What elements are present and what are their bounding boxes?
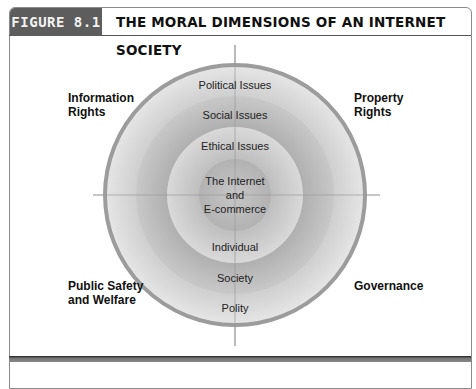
governance-label: Governance [354, 279, 423, 293]
society-label: Society [217, 272, 254, 284]
information-rights-label: Information Rights [68, 91, 134, 119]
property-rights-label: Property Rights [354, 91, 403, 119]
social-issues-label: Social Issues [203, 109, 268, 121]
center-label-line1: The Internet [205, 175, 264, 187]
polity-label: Polity [222, 302, 249, 314]
center-label-line2: and [226, 189, 244, 201]
center-label-line3: E-commerce [204, 203, 266, 215]
bottom-divider [9, 356, 471, 362]
individual-label: Individual [212, 241, 258, 253]
ethical-issues-label: Ethical Issues [201, 140, 269, 152]
political-issues-label: Political Issues [199, 79, 272, 91]
public-safety-label: Public Safety and Welfare [68, 279, 143, 307]
